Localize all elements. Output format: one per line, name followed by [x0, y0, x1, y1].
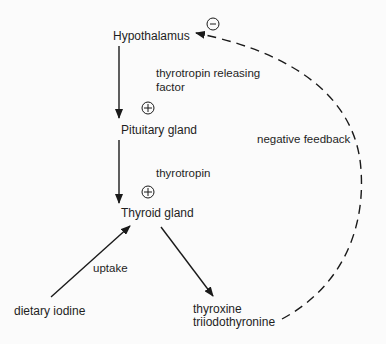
plus-sign-icon [142, 186, 154, 198]
edge-label-uptake: uptake [93, 261, 128, 275]
node-triiodothyronine: triiodothyronine [193, 315, 275, 329]
diagram-canvas: Hypothalamus thyrotropin releasing facto… [0, 0, 386, 344]
arrow-thyroid-to-hormones [161, 227, 213, 296]
edge-label-trf-line2: factor [156, 80, 185, 94]
node-thyroxine: thyroxine [193, 302, 242, 316]
edge-label-negative-feedback: negative feedback [257, 132, 350, 146]
plus-sign-icon [142, 102, 154, 114]
edge-label-thyrotropin: thyrotropin [156, 166, 210, 180]
node-hypothalamus: Hypothalamus [113, 29, 190, 43]
node-thyroid: Thyroid gland [121, 206, 194, 220]
edge-label-trf-line1: thyrotropin releasing [156, 66, 260, 80]
node-pituitary: Pituitary gland [121, 123, 197, 137]
minus-sign-icon [207, 18, 219, 30]
node-dietary-iodine: dietary iodine [14, 304, 85, 318]
